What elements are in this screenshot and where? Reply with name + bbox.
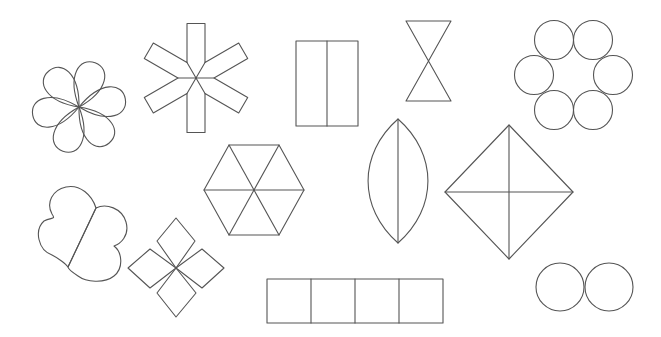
asterisk-inner-line xyxy=(196,78,205,94)
butterfly-lobes-shape xyxy=(38,187,126,282)
quartered-diamond-shape xyxy=(445,125,573,259)
ring-circle xyxy=(574,21,613,60)
six-arm-asterisk-shape xyxy=(144,24,247,133)
hourglass-outline xyxy=(406,21,451,101)
butterfly-divider xyxy=(68,208,96,267)
six-circle-ring-shape xyxy=(515,21,633,130)
geometric-shapes-canvas xyxy=(0,0,661,337)
butterfly-outline xyxy=(38,187,126,282)
divided-hexagon-shape xyxy=(204,145,304,235)
ring-circle xyxy=(535,21,574,60)
split-rectangle-shape xyxy=(296,41,358,126)
flower-petal xyxy=(79,87,126,117)
hexagon-spoke xyxy=(229,190,254,235)
four-diamond-cross-shape xyxy=(128,218,224,317)
twin-circles-shape xyxy=(536,263,633,311)
asterisk-inner-line xyxy=(187,78,196,94)
cross-diamond xyxy=(128,249,176,288)
twin-circle xyxy=(536,263,584,311)
hexagon-spoke xyxy=(254,145,279,190)
lens-leaf-shape xyxy=(368,119,428,243)
ring-circle xyxy=(574,91,613,130)
hourglass-shape xyxy=(406,21,451,101)
cross-diamond xyxy=(157,268,196,317)
cross-diamond xyxy=(157,218,195,268)
cross-diamond xyxy=(176,249,224,288)
ring-circle xyxy=(594,56,633,95)
asterisk-inner-line xyxy=(196,62,205,78)
twin-circle xyxy=(585,263,633,311)
ring-circle xyxy=(535,91,574,130)
asterisk-inner-line xyxy=(187,62,196,78)
hexagon-spoke xyxy=(254,190,279,235)
six-petal-flower-shape xyxy=(32,62,125,152)
hexagon-spoke xyxy=(229,145,254,190)
ring-circle xyxy=(515,56,554,95)
four-square-strip-shape xyxy=(267,279,443,323)
flower-petal xyxy=(32,98,79,128)
